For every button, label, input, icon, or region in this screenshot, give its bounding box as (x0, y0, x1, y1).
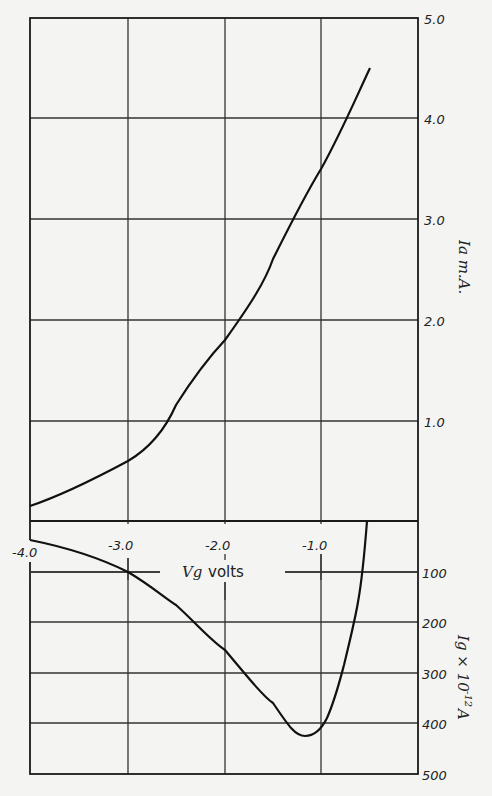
ig-tick: 300 (422, 667, 447, 682)
ig-tick: 500 (422, 768, 447, 783)
ia-axis-label: Ia m.A. (455, 239, 473, 294)
ia-tick: 5.0 (424, 12, 445, 27)
grid (30, 18, 418, 774)
ia-tick: 3.0 (424, 213, 445, 228)
vg-tick-labels: -4.0 -3.0 -2.0 -1.0 (12, 538, 327, 560)
vg-axis-unit: volts (208, 563, 244, 581)
ig-axis-label: Ig × 10 -12 A (454, 634, 474, 720)
ig-axis-unit: A (454, 707, 472, 720)
ia-tick: 1.0 (424, 415, 445, 430)
vg-tick: -1.0 (302, 538, 327, 553)
ia-tick: 2.0 (424, 314, 445, 329)
tick-label-backgrounds (4, 524, 345, 582)
ia-tick-labels: 5.0 4.0 3.0 2.0 1.0 (424, 12, 445, 430)
vg-tick: -2.0 (205, 538, 230, 553)
ig-axis-exponent: -12 (463, 691, 474, 707)
ia-curve (30, 68, 370, 506)
ia-tick: 4.0 (424, 112, 445, 127)
ig-tick-labels: 100 200 300 400 500 (422, 566, 447, 783)
plot-frame (30, 18, 418, 774)
vg-tick: -4.0 (12, 545, 37, 560)
ig-axis-main: Ig × 10 (454, 634, 472, 692)
ig-tick: 400 (422, 717, 447, 732)
ig-tick: 100 (422, 566, 447, 581)
chart-canvas: 5.0 4.0 3.0 2.0 1.0 100 200 300 400 500 … (0, 0, 492, 796)
vg-axis-label: Vg (182, 563, 202, 581)
ig-tick: 200 (422, 616, 447, 631)
vg-tick: -3.0 (108, 538, 133, 553)
